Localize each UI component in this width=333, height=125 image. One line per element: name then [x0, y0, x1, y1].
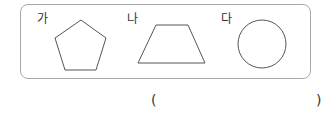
circle-shape — [238, 20, 286, 68]
trapezoid-shape — [138, 25, 205, 63]
answer-open-paren: ( — [151, 92, 156, 108]
answer-close-paren: ) — [316, 92, 321, 108]
answer-field[interactable] — [162, 92, 312, 110]
pentagon-shape — [55, 20, 106, 70]
